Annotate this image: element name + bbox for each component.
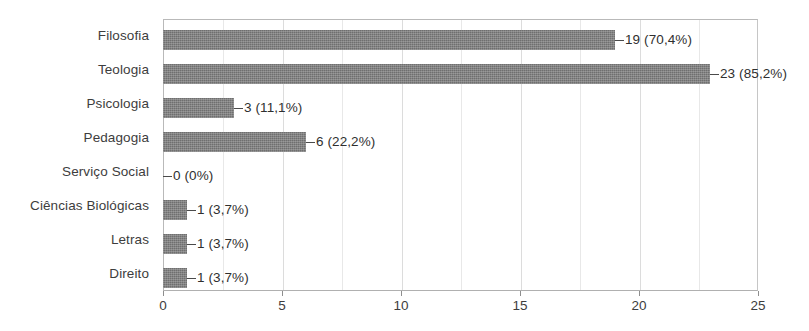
y-axis-label-7: Direito <box>0 267 149 281</box>
y-axis-category-labels: Filosofia Teologia Psicologia Pedagogia … <box>0 0 157 331</box>
x-axis-tick-label-15: 15 <box>512 299 527 313</box>
data-label-direito: 1 (3,7%) <box>197 271 249 285</box>
leader-line-ciencias-biologicas <box>187 210 196 211</box>
x-axis-tick-label-20: 20 <box>631 299 646 313</box>
x-axis-tick-0 <box>163 291 164 296</box>
leader-line-psicologia <box>234 108 243 109</box>
data-label-letras: 1 (3,7%) <box>197 237 249 251</box>
y-axis-label-3: Pedagogia <box>0 131 149 145</box>
data-labels-container: 19 (70,4%) 23 (85,2%) 3 (11,1%) 6 (22,2%… <box>163 19 809 291</box>
leader-line-letras <box>187 244 196 245</box>
data-label-pedagogia: 6 (22,2%) <box>316 135 375 149</box>
y-axis-label-5: Ciências Biológicas <box>0 199 149 213</box>
x-axis-tick-10 <box>401 291 402 296</box>
data-label-filosofia: 19 (70,4%) <box>625 33 692 47</box>
data-label-ciencias-biologicas: 1 (3,7%) <box>197 203 249 217</box>
y-axis-label-1: Teologia <box>0 63 149 77</box>
x-axis: 0 5 10 15 20 25 <box>163 291 809 331</box>
x-axis-tick-15 <box>520 291 521 296</box>
leader-line-direito <box>187 278 196 279</box>
leader-line-teologia <box>710 74 719 75</box>
bar-chart: Filosofia Teologia Psicologia Pedagogia … <box>0 0 809 331</box>
x-axis-tick-label-10: 10 <box>393 299 408 313</box>
leader-line-filosofia <box>615 40 624 41</box>
data-label-psicologia: 3 (11,1%) <box>244 101 302 115</box>
data-label-servico-social: 0 (0%) <box>173 169 213 183</box>
y-axis-label-6: Letras <box>0 233 149 247</box>
x-axis-tick-label-5: 5 <box>278 299 286 313</box>
x-axis-tick-20 <box>639 291 640 296</box>
x-axis-tick-5 <box>282 291 283 296</box>
data-label-teologia: 23 (85,2%) <box>720 67 787 81</box>
leader-line-servico-social <box>163 176 172 177</box>
x-axis-tick-label-0: 0 <box>159 299 167 313</box>
y-axis-label-4: Serviço Social <box>0 165 149 179</box>
x-axis-tick-label-25: 25 <box>750 299 765 313</box>
leader-line-pedagogia <box>306 142 315 143</box>
y-axis-label-0: Filosofia <box>0 29 149 43</box>
y-axis-label-2: Psicologia <box>0 97 149 111</box>
x-axis-tick-25 <box>758 291 759 296</box>
